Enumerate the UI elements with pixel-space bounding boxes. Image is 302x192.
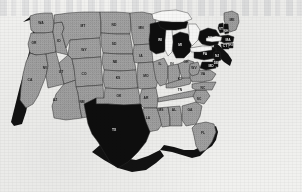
state-label-MD: MD	[208, 64, 214, 68]
state-label-SC: SC	[197, 97, 202, 101]
lake-superior	[152, 10, 192, 22]
state-label-WV: WV	[191, 66, 197, 70]
state-label-MS: MS	[159, 108, 165, 112]
state-label-OR: OR	[32, 41, 38, 45]
state-label-ND: ND	[112, 23, 117, 27]
us-map-svg: WAORCANVIDMTWYUTAZCONMNDSDNEKSOKTXMNIAMO…	[0, 0, 302, 192]
state-GA[interactable]	[182, 102, 202, 126]
state-label-UT: UT	[59, 70, 63, 74]
state-label-CO: CO	[82, 72, 87, 76]
state-label-AZ: AZ	[53, 98, 57, 102]
state-label-KS: KS	[116, 76, 121, 80]
state-label-LA: LA	[146, 116, 151, 120]
state-label-NC: NC	[201, 86, 206, 90]
state-label-MA: MA	[225, 38, 231, 42]
state-label-DE: DE	[214, 61, 219, 65]
state-label-OH: OH	[184, 60, 190, 64]
state-label-IL: IL	[159, 62, 162, 66]
state-label-NV: NV	[43, 66, 48, 70]
state-FL[interactable]	[192, 122, 216, 152]
state-label-MT: MT	[81, 24, 86, 28]
state-label-RI: RI	[229, 43, 232, 47]
state-label-AL: AL	[172, 108, 176, 112]
state-label-NJ: NJ	[215, 54, 219, 58]
state-SD[interactable]	[101, 33, 133, 54]
state-label-VA: VA	[201, 72, 206, 76]
state-label-NE: NE	[113, 60, 118, 64]
state-label-OK: OK	[117, 94, 123, 98]
state-label-WY: WY	[81, 48, 87, 52]
state-label-GA: GA	[188, 108, 194, 112]
state-CA[interactable]	[20, 53, 48, 108]
state-label-MO: MO	[143, 74, 149, 78]
state-label-WA: WA	[38, 21, 44, 25]
state-KS[interactable]	[103, 70, 138, 89]
state-label-WI: WI	[158, 38, 162, 42]
state-label-CT: CT	[223, 44, 227, 48]
state-label-FL: FL	[201, 131, 205, 135]
state-label-MN: MN	[138, 26, 144, 30]
lake-michigan	[165, 30, 173, 56]
state-CO[interactable]	[72, 57, 103, 87]
state-label-VT: VT	[219, 27, 223, 31]
state-label-SD: SD	[112, 42, 117, 46]
state-label-ME: ME	[230, 18, 236, 22]
state-NE[interactable]	[102, 53, 136, 71]
state-label-NH: NH	[224, 29, 229, 33]
state-label-CA: CA	[28, 78, 33, 82]
state-label-NY: NY	[208, 36, 213, 40]
state-TX[interactable]	[84, 98, 150, 168]
map-figure: WAORCANVIDMTWYUTAZCONMNDSDNEKSOKTXMNIAMO…	[0, 0, 302, 192]
state-label-MI: MI	[178, 43, 182, 47]
state-label-AR: AR	[144, 96, 149, 100]
state-label-KY: KY	[178, 77, 183, 81]
state-label-PA: PA	[203, 52, 208, 56]
state-label-NM: NM	[79, 100, 84, 104]
state-label-TN: TN	[178, 88, 183, 92]
